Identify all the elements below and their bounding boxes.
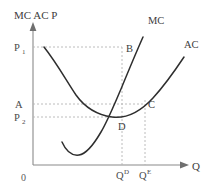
mc-curve-label: MC: [148, 15, 164, 26]
x-tick-qd: Q D: [116, 168, 129, 181]
y-tick-p1-label: P: [14, 42, 20, 53]
point-label-d: D: [118, 121, 126, 132]
x-axis-arrow-icon: [180, 162, 189, 169]
y-axis-arrow-icon: [30, 22, 37, 31]
point-label-b: B: [126, 43, 133, 54]
y-tick-a-label: A: [15, 99, 23, 110]
x-tick-qe-label: Q: [139, 170, 147, 181]
diagram-canvas: MC AC P MC AC: [0, 0, 213, 193]
y-tick-p2-label: P: [14, 112, 20, 123]
x-axis-title: Q: [192, 160, 200, 172]
y-tick-a: A: [15, 99, 23, 110]
x-tick-qd-label: Q: [116, 170, 124, 181]
y-tick-p1: P 1: [14, 42, 26, 56]
y-axis-title: MC AC P: [14, 9, 57, 21]
y-tick-p2-subscript: 2: [22, 118, 26, 126]
point-label-c: C: [148, 99, 155, 110]
cost-curve-diagram: MC AC P MC AC: [0, 0, 213, 193]
y-tick-p2: P 2: [14, 112, 26, 126]
x-tick-qe: Q E: [139, 168, 151, 181]
x-tick-qe-superscript: E: [147, 168, 151, 176]
guide-lines-group: [33, 47, 145, 165]
axes-group: [30, 22, 189, 168]
y-tick-p1-subscript: 1: [22, 48, 26, 56]
ac-curve-label: AC: [184, 39, 199, 50]
mc-curve: [62, 37, 143, 155]
x-tick-qd-superscript: D: [124, 168, 129, 176]
origin-label: 0: [21, 172, 26, 183]
